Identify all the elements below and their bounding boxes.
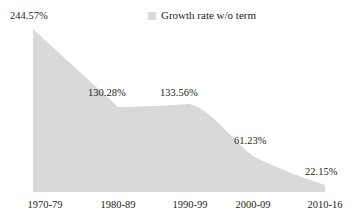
series-growth-rate-wo-term <box>0 0 356 223</box>
x-tick-label-2010-16: 2010-16 <box>308 200 343 211</box>
data-label-1970-79: 244.57% <box>10 11 48 22</box>
x-tick-label-2000-09: 2000-09 <box>236 200 271 211</box>
data-label-2000-09: 61.23% <box>234 136 266 147</box>
area-chart: Growth rate w/o term 244.57% 130.28% 133… <box>0 0 356 223</box>
data-label-1990-99: 133.56% <box>160 88 198 99</box>
chart-legend: Growth rate w/o term <box>148 10 256 21</box>
data-label-2010-16: 22.15% <box>305 167 337 178</box>
x-axis: 1970-79 1980-89 1990-99 2000-09 2010-16 <box>0 200 356 216</box>
legend-label: Growth rate w/o term <box>161 10 256 21</box>
plot-area <box>0 0 356 223</box>
area-series-path <box>33 29 325 192</box>
data-label-1980-89: 130.28% <box>88 88 126 99</box>
x-tick-label-1990-99: 1990-99 <box>173 200 208 211</box>
legend-swatch-icon <box>148 12 156 20</box>
x-tick-label-1970-79: 1970-79 <box>28 200 63 211</box>
x-tick-label-1980-89: 1980-89 <box>101 200 136 211</box>
